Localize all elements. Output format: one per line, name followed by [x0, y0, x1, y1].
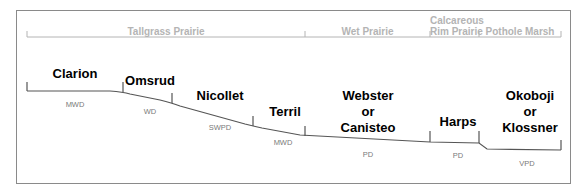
soil-label-clarion: Clarion — [30, 66, 120, 82]
soil-name-line2: or — [320, 104, 416, 120]
drainage-label-nicollet: SWPD — [200, 123, 240, 132]
drainage-label-harps: PD — [443, 151, 473, 160]
zone-label-line2: Rim Prairie — [430, 26, 479, 37]
zone-label-pothole-marsh: Pothole Marsh — [479, 26, 561, 37]
zone-label-tallgrass-prairie: Tallgrass Prairie — [27, 26, 305, 37]
soil-name-line3: Klossner — [488, 120, 572, 136]
drainage-label-omsrud: WD — [135, 107, 165, 116]
zone-label-line1: Calcareous — [430, 15, 479, 26]
soil-label-terril: Terril — [262, 104, 308, 120]
soil-name-line3: Canisteo — [320, 120, 416, 136]
soil-label-nicollet: Nicollet — [180, 88, 260, 104]
soil-label-okoboji-or-klossner: Okoboji or Klossner — [488, 88, 572, 136]
zone-label-calcareous-rim-prairie: Calcareous Rim Prairie — [430, 15, 479, 37]
drainage-label-terril: MWD — [268, 138, 298, 147]
drainage-label-webster-canisteo: PD — [353, 150, 383, 159]
soil-name-line1: Okoboji — [488, 88, 572, 104]
soil-label-harps: Harps — [430, 114, 486, 130]
soil-name-line2: or — [488, 104, 572, 120]
soil-label-webster-or-canisteo: Webster or Canisteo — [320, 88, 416, 136]
drainage-label-okoboji-klossner: VPD — [512, 159, 542, 168]
zone-label-wet-prairie: Wet Prairie — [305, 26, 430, 37]
soil-label-omsrud: Omsrud — [124, 73, 176, 89]
drainage-label-clarion: MWD — [60, 100, 90, 109]
soil-name-line1: Webster — [320, 88, 416, 104]
